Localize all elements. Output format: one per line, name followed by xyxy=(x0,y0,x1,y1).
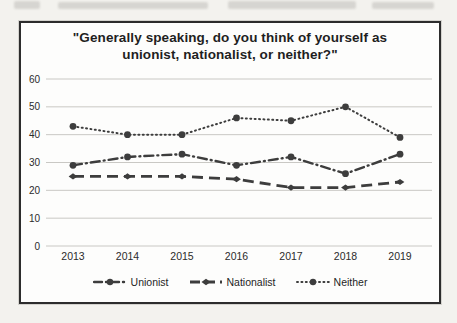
x-axis-tick-label: 2014 xyxy=(116,250,140,262)
scan-bleed-artifact xyxy=(228,1,356,9)
data-point-marker xyxy=(342,103,349,110)
data-point-marker xyxy=(397,134,404,141)
data-point-marker xyxy=(288,117,295,124)
chart-panel: 0102030405060201320142015201620172018201… xyxy=(19,21,441,304)
legend-label-unionist: Unionist xyxy=(131,276,169,288)
data-point-marker xyxy=(124,131,131,138)
y-axis-tick-label: 20 xyxy=(29,185,41,196)
x-axis-tick-label: 2013 xyxy=(61,250,85,262)
data-point-marker xyxy=(123,173,132,179)
x-axis-tick-label: 2016 xyxy=(225,250,249,262)
legend-item-unionist: Unionist xyxy=(93,276,169,288)
data-point-marker xyxy=(233,115,240,122)
x-axis-tick-label: 2018 xyxy=(334,250,358,262)
data-point-marker xyxy=(233,162,240,169)
legend-item-neither: Neither xyxy=(296,276,368,288)
chart-legend: Unionist Nationalist Neither xyxy=(21,276,439,288)
line-chart: 0102030405060201320142015201620172018201… xyxy=(21,23,439,302)
data-point-marker xyxy=(178,173,187,179)
data-point-marker xyxy=(70,162,77,169)
scan-bleed-artifact xyxy=(372,2,434,9)
y-axis-tick-label: 60 xyxy=(29,74,41,85)
nationalist-line-sample-icon xyxy=(189,276,223,288)
neither-line-sample-icon xyxy=(296,276,330,288)
legend-label-nationalist: Nationalist xyxy=(227,276,276,288)
data-point-marker xyxy=(396,179,405,185)
data-point-marker xyxy=(124,154,131,161)
y-axis-tick-label: 50 xyxy=(29,101,41,112)
legend-item-nationalist: Nationalist xyxy=(189,276,276,288)
scan-bleed-artifact xyxy=(58,2,208,9)
y-axis-tick-label: 10 xyxy=(29,213,41,224)
data-point-marker xyxy=(70,123,77,130)
scan-bleed-artifact xyxy=(14,1,40,9)
series-line-neither xyxy=(73,107,400,138)
data-point-marker xyxy=(287,184,296,190)
data-point-marker xyxy=(342,170,349,177)
data-point-marker xyxy=(288,154,295,161)
chart-title: "Generally speaking, do you think of you… xyxy=(46,29,414,63)
y-axis-tick-label: 40 xyxy=(29,129,41,140)
x-axis-tick-label: 2017 xyxy=(279,250,303,262)
y-axis-tick-label: 0 xyxy=(34,241,40,252)
data-point-marker xyxy=(179,131,186,138)
data-point-marker xyxy=(179,151,186,158)
unionist-line-sample-icon xyxy=(93,276,127,288)
data-point-marker xyxy=(69,173,78,179)
data-point-marker xyxy=(232,176,241,182)
data-point-marker xyxy=(341,184,350,190)
x-axis-tick-label: 2015 xyxy=(170,250,194,262)
y-axis-tick-label: 30 xyxy=(29,157,41,168)
legend-label-neither: Neither xyxy=(334,276,368,288)
data-point-marker xyxy=(397,151,404,158)
x-axis-tick-label: 2019 xyxy=(388,250,412,262)
